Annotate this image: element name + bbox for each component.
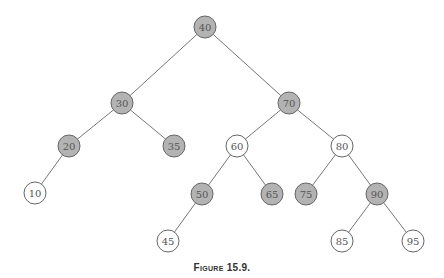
node-label: 20	[63, 141, 76, 152]
node-label: 35	[168, 141, 181, 152]
edge-60-50	[208, 155, 230, 185]
edge-30-35	[130, 110, 165, 139]
edge-70-80	[298, 110, 334, 139]
tree-diagram: 403070203560801050657590458595	[0, 0, 444, 260]
edge-40-70	[213, 34, 281, 95]
node-65: 65	[261, 183, 283, 205]
node-label: 10	[29, 188, 42, 199]
edge-40-30	[130, 34, 197, 95]
node-label: 90	[371, 189, 384, 200]
node-label: 60	[231, 141, 244, 152]
edge-30-20	[78, 110, 114, 139]
node-90: 90	[366, 183, 388, 205]
node-50: 50	[191, 183, 213, 205]
edge-90-95	[384, 203, 407, 233]
node-label: 85	[336, 236, 349, 247]
node-40: 40	[194, 16, 216, 38]
node-80: 80	[331, 135, 353, 157]
edge-20-10	[41, 155, 62, 184]
node-60: 60	[226, 135, 248, 157]
edge-50-45	[174, 203, 195, 232]
edge-80-90	[348, 155, 370, 185]
edge-90-85	[349, 203, 371, 232]
node-10: 10	[24, 182, 46, 204]
node-30: 30	[111, 92, 133, 114]
node-45: 45	[157, 230, 179, 252]
node-20: 20	[58, 135, 80, 157]
node-label: 80	[336, 141, 349, 152]
node-label: 95	[407, 236, 420, 247]
caption-text: Figure 15.9.	[194, 262, 251, 273]
node-70: 70	[278, 92, 300, 114]
edge-60-65	[243, 155, 265, 185]
node-label: 45	[162, 236, 175, 247]
node-label: 75	[300, 189, 313, 200]
tree-edges	[41, 34, 406, 232]
node-label: 50	[196, 189, 209, 200]
edge-70-60	[245, 110, 280, 139]
node-75: 75	[295, 183, 317, 205]
node-label: 30	[116, 98, 129, 109]
edge-80-75	[313, 155, 336, 185]
node-85: 85	[331, 230, 353, 252]
node-label: 40	[199, 22, 212, 33]
node-35: 35	[163, 135, 185, 157]
node-label: 65	[266, 189, 279, 200]
figure-caption: Figure 15.9.	[0, 262, 444, 273]
node-label: 70	[283, 98, 296, 109]
node-95: 95	[402, 230, 424, 252]
